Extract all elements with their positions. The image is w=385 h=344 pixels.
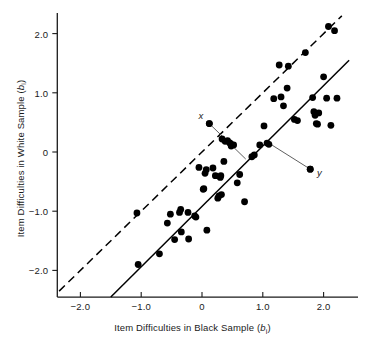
data-point bbox=[307, 166, 314, 173]
x-tick-label: −1.0 bbox=[131, 301, 151, 312]
data-point bbox=[200, 185, 207, 192]
data-point bbox=[171, 236, 178, 243]
data-point bbox=[251, 152, 258, 159]
x-axis-title: Item Difficulties in Black Sample (bi) bbox=[0, 322, 385, 335]
data-point bbox=[196, 164, 203, 171]
data-point bbox=[261, 123, 268, 130]
scatter-plot-figure: −2.0−1.001.02.0−2.0−1.001.02.0 xy Item D… bbox=[0, 0, 385, 344]
data-point bbox=[314, 121, 321, 128]
data-point bbox=[185, 209, 192, 216]
data-point bbox=[302, 49, 309, 56]
data-point bbox=[331, 27, 338, 34]
data-point bbox=[315, 110, 322, 117]
data-point bbox=[185, 236, 192, 243]
data-point bbox=[294, 117, 301, 124]
data-point bbox=[265, 141, 272, 148]
identity-line bbox=[59, 16, 342, 291]
data-point bbox=[323, 95, 330, 102]
data-point bbox=[280, 102, 287, 109]
annotation-label-y: y bbox=[317, 166, 322, 177]
data-point bbox=[210, 165, 217, 172]
x-tick-label: 0 bbox=[199, 301, 204, 312]
x-tick-label: −2.0 bbox=[71, 301, 91, 312]
data-point bbox=[193, 214, 200, 221]
data-point bbox=[230, 141, 237, 148]
data-point bbox=[134, 210, 141, 217]
data-point bbox=[285, 63, 292, 70]
y-axis-title: Item Difficulties in White Sample (bi) bbox=[15, 18, 28, 298]
reference-lines bbox=[59, 16, 349, 297]
data-point bbox=[325, 23, 332, 30]
data-point bbox=[278, 94, 285, 101]
x-tick-label: 1.0 bbox=[256, 301, 270, 312]
data-point bbox=[234, 179, 241, 186]
data-point bbox=[320, 73, 327, 80]
data-point bbox=[309, 94, 316, 101]
data-point bbox=[220, 158, 227, 165]
x-tick-label: 2.0 bbox=[317, 301, 331, 312]
x-axis-title-tail: ) bbox=[267, 322, 270, 333]
data-point bbox=[203, 166, 210, 173]
data-point bbox=[217, 172, 224, 179]
x-axis-title-main: Item Difficulties in Black Sample ( bbox=[114, 322, 260, 333]
data-point bbox=[206, 120, 213, 127]
data-point bbox=[241, 198, 248, 205]
data-point bbox=[256, 141, 263, 148]
data-point bbox=[135, 261, 142, 268]
data-point bbox=[236, 171, 243, 178]
y-axis-title-symbol: bi bbox=[15, 83, 26, 90]
annotation-leader-y bbox=[269, 143, 310, 169]
data-point bbox=[284, 85, 291, 92]
axes bbox=[52, 13, 358, 297]
data-point bbox=[334, 95, 341, 102]
data-point bbox=[177, 206, 184, 213]
data-point bbox=[164, 220, 171, 227]
data-point bbox=[178, 229, 185, 236]
data-point bbox=[203, 227, 210, 234]
annotation-label-x: x bbox=[198, 110, 203, 121]
data-points bbox=[134, 23, 341, 268]
data-point bbox=[167, 211, 174, 218]
data-point bbox=[327, 122, 334, 129]
data-point bbox=[156, 250, 163, 257]
y-axis-title-tail: ) bbox=[15, 80, 26, 83]
plot-canvas bbox=[0, 0, 385, 344]
data-point bbox=[276, 62, 283, 69]
data-point bbox=[218, 191, 225, 198]
data-point bbox=[270, 95, 277, 102]
y-axis-title-main: Item Difficulties in White Sample ( bbox=[15, 90, 26, 237]
